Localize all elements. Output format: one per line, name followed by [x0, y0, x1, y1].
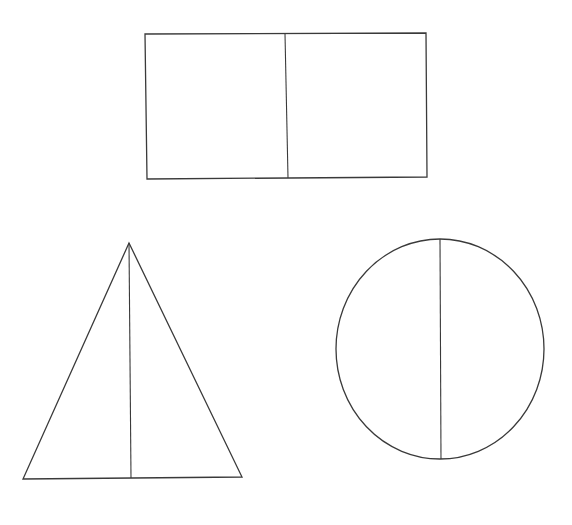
circle-group: [336, 239, 544, 459]
rectangle-divider-line: [285, 34, 288, 178]
circle-divider-line: [440, 239, 441, 459]
triangle-shape: [23, 243, 242, 479]
triangle-group: [23, 243, 242, 479]
triangle-divider-line: [129, 243, 131, 478]
diagram-canvas: [0, 0, 572, 525]
rectangle-group: [145, 33, 427, 179]
